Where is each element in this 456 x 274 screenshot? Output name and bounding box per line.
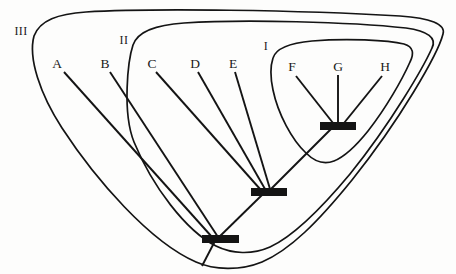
- group-label-III: III: [14, 24, 27, 38]
- envelope-group-I: [271, 40, 412, 163]
- branch-F: [296, 76, 333, 123]
- figure-canvas: A B C D E F G H I II III: [0, 0, 456, 274]
- branch-node-II-to-node-III: [215, 195, 262, 241]
- branch-B: [110, 72, 218, 237]
- node-bar-group-III: [202, 235, 239, 243]
- branch-node-I-to-node-II: [270, 128, 332, 190]
- branch-A: [64, 72, 212, 237]
- cladogram-diagram: A B C D E F G H I II III: [0, 0, 456, 274]
- node-bar-group-I: [320, 122, 356, 130]
- taxon-labels: A B C D E F G H: [52, 56, 390, 74]
- taxon-label-D: D: [190, 56, 200, 71]
- group-labels: I II III: [14, 24, 268, 53]
- envelope-group-III: [32, 10, 443, 268]
- taxon-label-G: G: [333, 59, 343, 74]
- node-bars: [202, 122, 356, 243]
- taxon-label-H: H: [380, 59, 390, 74]
- node-bar-group-II: [251, 188, 287, 196]
- taxon-label-C: C: [147, 56, 156, 71]
- group-envelopes: [32, 10, 443, 268]
- group-label-II: II: [120, 33, 129, 47]
- branch-root-stem: [202, 241, 215, 266]
- taxon-label-B: B: [100, 56, 109, 71]
- envelope-group-II: [127, 21, 433, 252]
- taxon-label-E: E: [229, 56, 237, 71]
- taxon-label-F: F: [288, 59, 296, 74]
- group-label-I: I: [264, 39, 268, 53]
- branch-H: [344, 76, 382, 123]
- taxon-label-A: A: [52, 56, 62, 71]
- branch-E: [235, 72, 270, 189]
